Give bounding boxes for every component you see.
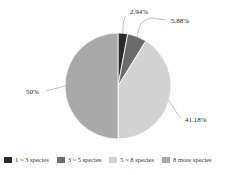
legend-swatch	[4, 157, 12, 163]
leader-line	[169, 100, 180, 118]
legend-label: 8 more species	[173, 156, 212, 163]
legend-item-3-5: 3 ~ 5 species	[57, 156, 102, 163]
legend-swatch	[109, 157, 117, 163]
legend-label: 3 ~ 5 species	[68, 156, 102, 163]
legend: 1 ~ 3 species 3 ~ 5 species 5 ~ 8 specie…	[4, 156, 220, 163]
legend-swatch	[162, 157, 170, 163]
slice-label: 50%	[26, 88, 39, 96]
legend-item-1-3: 1 ~ 3 species	[4, 156, 49, 163]
legend-label: 5 ~ 8 species	[120, 156, 154, 163]
slice-label: 41.18%	[185, 116, 207, 124]
leader-line	[46, 86, 65, 91]
slice-label: 5.88%	[171, 17, 189, 25]
pie-chart: 2.94%5.88%41.18%50%	[0, 0, 244, 175]
legend-item-8-more: 8 more species	[162, 156, 212, 163]
leader-line	[137, 18, 166, 37]
legend-item-5-8: 5 ~ 8 species	[109, 156, 154, 163]
legend-label: 1 ~ 3 species	[15, 156, 49, 163]
pie-slice	[65, 33, 118, 139]
legend-swatch	[57, 157, 65, 163]
slice-label: 2.94%	[130, 8, 148, 16]
leader-line	[123, 16, 126, 33]
